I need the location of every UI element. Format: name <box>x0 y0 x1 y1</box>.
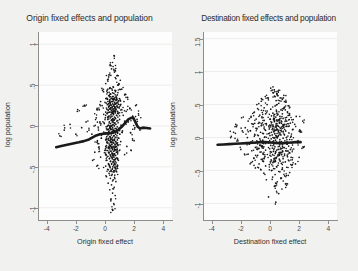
y-tick-label: -.5 <box>29 165 36 185</box>
panel-origin-title: Origin fixed effects and population <box>0 13 179 23</box>
y-tick-label: -1 <box>194 202 201 222</box>
origin-y-axis-title: log population <box>3 95 12 155</box>
destination-y-axis-line <box>203 32 204 221</box>
plot-area-destination <box>203 32 337 220</box>
x-tick-mark <box>134 221 135 224</box>
x-tick-label: -2 <box>231 225 251 232</box>
y-tick-label: 0 <box>194 136 201 156</box>
origin-plot-canvas <box>38 32 172 220</box>
y-tick-label: 1 <box>29 43 36 63</box>
destination-plot-canvas <box>203 32 337 220</box>
x-tick-mark <box>212 221 213 224</box>
x-tick-mark <box>47 221 48 224</box>
plot-area-origin <box>38 32 172 220</box>
origin-y-axis-line <box>38 32 39 221</box>
x-tick-label: 4 <box>153 225 173 232</box>
y-tick-label: 1.5 <box>194 37 201 57</box>
scatter-points <box>229 86 305 205</box>
x-tick-label: -4 <box>37 225 57 232</box>
x-tick-mark <box>270 221 271 224</box>
x-tick-mark <box>105 221 106 224</box>
x-tick-mark <box>299 221 300 224</box>
y-tick-label: .5 <box>29 84 36 104</box>
x-tick-label: 2 <box>124 225 144 232</box>
y-tick-label: -.5 <box>194 169 201 189</box>
destination-y-axis-title: log population <box>168 95 177 155</box>
x-tick-mark <box>328 221 329 224</box>
x-tick-mark <box>163 221 164 224</box>
panel-destination-title: Destination fixed effects and population <box>179 13 358 23</box>
panel-destination-fixed-effects: Destination fixed effects and population… <box>179 0 358 271</box>
x-tick-label: -2 <box>66 225 86 232</box>
x-tick-label: -4 <box>202 225 222 232</box>
lowess-smoother-line <box>218 142 301 145</box>
y-tick-label: -1 <box>29 206 36 226</box>
destination-x-axis-title: Destination fixed effect <box>203 237 337 246</box>
origin-x-axis-title: Origin fixed effect <box>38 237 172 246</box>
y-tick-label: 1 <box>194 70 201 90</box>
x-tick-label: 2 <box>289 225 309 232</box>
x-tick-mark <box>76 221 77 224</box>
y-tick-label: .5 <box>194 103 201 123</box>
x-tick-mark <box>241 221 242 224</box>
x-tick-label: 4 <box>318 225 338 232</box>
x-tick-label: 0 <box>260 225 280 232</box>
panel-origin-fixed-effects: Origin fixed effects and population 1.50… <box>0 0 179 271</box>
x-tick-label: 0 <box>95 225 115 232</box>
y-tick-label: 0 <box>29 125 36 145</box>
two-panel-scatter-figure: Origin fixed effects and population 1.50… <box>0 0 358 271</box>
